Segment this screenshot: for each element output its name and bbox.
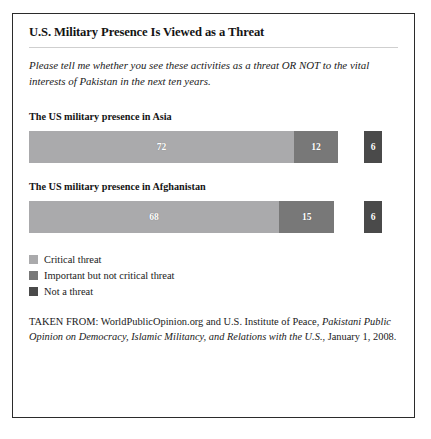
bar-segment-important: 12 <box>294 131 338 163</box>
legend-swatch-critical <box>29 255 38 264</box>
figure-container: U.S. Military Presence Is Viewed as a Th… <box>12 13 415 418</box>
chart-series-container: The US military presence in Asia72126The… <box>29 111 398 233</box>
legend-label: Important but not critical threat <box>44 269 174 282</box>
stacked-bar: 68156 <box>29 201 397 233</box>
legend-label: Critical threat <box>44 253 101 266</box>
legend-item: Not a threat <box>29 285 398 298</box>
series-label: The US military presence in Asia <box>29 111 398 122</box>
bar-segment-critical: 68 <box>29 201 279 233</box>
source-suffix: , January 1, 2008. <box>323 331 397 342</box>
chart-series-block: The US military presence in Asia72126 <box>29 111 398 163</box>
legend-label: Not a threat <box>44 285 93 298</box>
figure-question: Please tell me whether you see these act… <box>29 57 398 89</box>
bar-segment-critical: 72 <box>29 131 294 163</box>
source-citation: TAKEN FROM: WorldPublicOpinion.org and U… <box>29 314 398 344</box>
legend-item: Critical threat <box>29 253 398 266</box>
source-prefix: TAKEN FROM: WorldPublicOpinion.org and U… <box>29 316 319 327</box>
legend-item: Important but not critical threat <box>29 269 398 282</box>
bar-segment-not: 6 <box>364 201 382 233</box>
title-divider <box>29 47 398 48</box>
bar-segment-not: 6 <box>364 131 382 163</box>
chart-series-block: The US military presence in Afghanistan6… <box>29 181 398 233</box>
bar-segment-important: 15 <box>279 201 334 233</box>
legend-swatch-important <box>29 271 38 280</box>
chart-legend: Critical threatImportant but not critica… <box>29 253 398 298</box>
figure-title: U.S. Military Presence Is Viewed as a Th… <box>29 25 398 41</box>
figure-inner: U.S. Military Presence Is Viewed as a Th… <box>13 14 414 344</box>
legend-swatch-not_a_threat <box>29 287 38 296</box>
stacked-bar: 72126 <box>29 131 397 163</box>
series-label: The US military presence in Afghanistan <box>29 181 398 192</box>
